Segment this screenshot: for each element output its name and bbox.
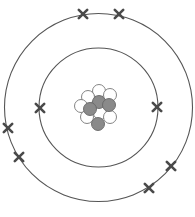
electron-cross-icon bbox=[167, 162, 175, 170]
proton bbox=[84, 103, 97, 116]
neutron bbox=[104, 111, 117, 124]
electron-cross-icon bbox=[153, 103, 161, 111]
proton bbox=[92, 118, 105, 131]
proton bbox=[103, 99, 116, 112]
nucleus bbox=[75, 85, 117, 131]
atom-diagram bbox=[0, 0, 195, 217]
electron-cross-icon bbox=[115, 10, 123, 18]
electron-cross-icon bbox=[15, 153, 23, 161]
electron-cross-icon bbox=[36, 104, 44, 112]
